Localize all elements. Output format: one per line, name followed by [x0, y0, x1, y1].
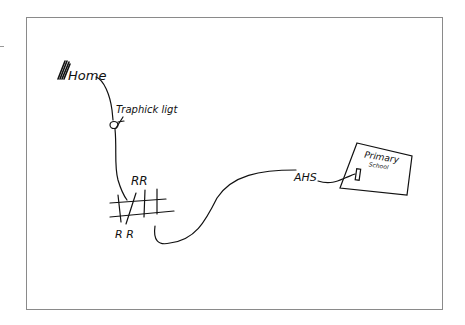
school-door-icon [355, 169, 360, 180]
railroad-crossing-icon [110, 189, 174, 224]
traffic-light-label: Traphick ligt [116, 104, 178, 115]
route-traffic-light-to-railroad [115, 129, 127, 200]
home-label: Home [68, 68, 106, 83]
route-ahs-to-school [318, 174, 355, 183]
traffic-light-icon [110, 117, 124, 129]
railroad-label-bottom: R R [115, 228, 134, 241]
route-home-to-traffic-light [96, 77, 113, 120]
route-railroad-to-ahs [155, 170, 296, 244]
sketch-map: Home Traphick ligt RR R R AHS Primary Sc… [0, 0, 465, 325]
ahs-label: AHS [293, 171, 317, 184]
railroad-label-top: RR [131, 174, 148, 188]
